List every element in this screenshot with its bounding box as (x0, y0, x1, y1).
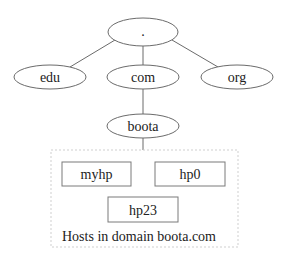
node-root: . (108, 18, 178, 46)
node-boota-label: boota (127, 119, 159, 134)
host-myhp-label: myhp (81, 167, 113, 182)
edge-root-edu (70, 40, 115, 67)
host-hp23: hp23 (108, 197, 178, 222)
hosts-group-caption: Hosts in domain boota.com (62, 229, 216, 244)
node-org-label: org (228, 70, 246, 85)
host-hp23-label: hp23 (129, 203, 157, 218)
node-root-label: . (141, 24, 145, 39)
edge-root-org (172, 40, 218, 67)
node-boota: boota (107, 114, 179, 138)
host-hp0-label: hp0 (180, 167, 201, 182)
host-myhp: myhp (62, 162, 131, 186)
node-org: org (201, 65, 273, 89)
host-hp0: hp0 (155, 162, 225, 186)
node-edu: edu (14, 65, 86, 89)
node-edu-label: edu (40, 70, 60, 85)
dns-tree-diagram: . edu com org boota myhp hp0 hp23 Hosts … (0, 0, 286, 261)
node-com-label: com (131, 70, 155, 85)
node-com: com (107, 65, 179, 89)
